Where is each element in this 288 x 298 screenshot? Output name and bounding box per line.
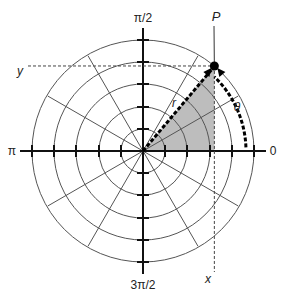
angle-label-right: 0 bbox=[270, 144, 277, 158]
point-label: P bbox=[212, 9, 221, 24]
y-label: y bbox=[16, 64, 24, 78]
polar-diagram: π/2 π 0 3π/2 P r θ x y bbox=[0, 0, 288, 298]
theta-label: θ bbox=[234, 100, 241, 114]
x-label: x bbox=[204, 272, 212, 286]
theta-arc bbox=[215, 77, 246, 147]
radius-label: r bbox=[172, 96, 177, 110]
angle-label-left: π bbox=[8, 144, 16, 158]
angle-label-top: π/2 bbox=[134, 11, 153, 25]
angle-label-bottom: 3π/2 bbox=[131, 278, 156, 292]
point-p-dot bbox=[210, 61, 219, 70]
